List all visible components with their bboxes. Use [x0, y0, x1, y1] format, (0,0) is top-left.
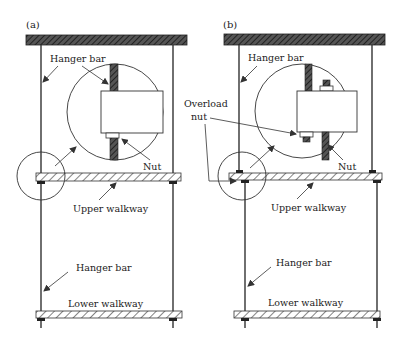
upper-right-nut — [169, 181, 177, 184]
walkway-diagram: (a) Hanger bar Nut Upper walkway Hange — [0, 0, 405, 348]
arrow-hanger-left — [241, 66, 257, 82]
upper-right-top-nut — [369, 170, 376, 173]
panel-a: (a) Hanger bar Nut Upper walkway Hange — [17, 19, 187, 328]
upper-left-nut — [37, 181, 45, 184]
lower-walkway — [36, 311, 182, 318]
ceiling-beam — [224, 34, 385, 45]
label-hanger-bar-top: Hanger bar — [50, 53, 106, 64]
arrow-nut — [328, 145, 343, 160]
panel-a-label: (a) — [26, 19, 40, 30]
label-nut: Nut — [143, 161, 161, 172]
lower-right-nut — [373, 318, 381, 321]
label-hanger-bar-bottom: Hanger bar — [76, 262, 132, 273]
detail-lower-rod-end — [303, 137, 310, 142]
detail-upper-hanger-rod — [305, 64, 312, 91]
upper-right-bottom-nut — [373, 180, 381, 183]
lower-left-nut — [37, 318, 45, 321]
label-upper-walkway: Upper walkway — [271, 202, 347, 213]
arrow-upper-walkway — [99, 183, 116, 200]
lower-walkway — [234, 311, 380, 318]
label-hanger-bar-top: Hanger bar — [248, 52, 304, 63]
upper-left-top-nut — [236, 170, 243, 173]
detail-top-nut — [320, 86, 333, 91]
label-hanger-bar-bottom: Hanger bar — [276, 257, 332, 268]
lower-left-nut — [241, 318, 249, 321]
detail-lower-hanger-rod — [322, 132, 329, 160]
panel-b: (b) Hanger bar — [184, 19, 385, 328]
magnify-arrow — [250, 146, 274, 168]
label-nut: Nut — [338, 161, 356, 172]
panel-b-label: (b) — [223, 19, 237, 30]
arrow-hanger-bottom — [248, 267, 271, 286]
upper-left-bottom-nut — [241, 180, 249, 183]
detail-upper-rod-end — [323, 80, 330, 86]
arrow-hanger-bottom — [44, 272, 68, 291]
label-upper-walkway: Upper walkway — [73, 203, 149, 214]
upper-walkway — [229, 173, 382, 180]
label-overload-line1: Overload — [184, 98, 228, 109]
arrow-upper-walkway — [297, 183, 313, 199]
arrow-hanger-left — [43, 66, 58, 82]
ceiling-beam — [26, 35, 187, 45]
detail-overload-nut — [300, 132, 313, 137]
label-overload-line2: nut — [191, 111, 207, 122]
detail-nut — [106, 133, 119, 138]
lower-right-nut — [169, 318, 177, 321]
magnify-arrow — [55, 147, 76, 166]
detail-box-beam — [101, 91, 163, 133]
label-lower-walkway: Lower walkway — [268, 297, 344, 308]
label-lower-walkway: Lower walkway — [68, 298, 144, 309]
upper-walkway — [36, 173, 181, 181]
detail-box-beam — [297, 91, 357, 132]
arrow-overload-walkway — [205, 124, 236, 181]
